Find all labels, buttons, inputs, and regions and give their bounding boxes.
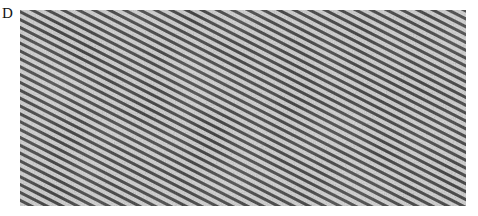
panel-label: D: [2, 6, 13, 21]
micrograph-image: [20, 10, 466, 206]
